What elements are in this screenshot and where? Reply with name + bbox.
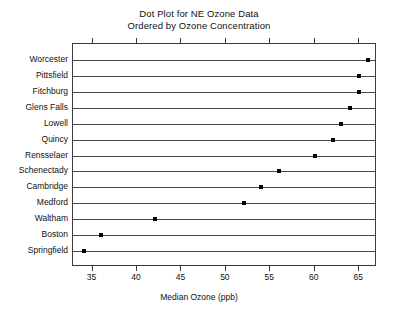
category-label: Cambridge	[26, 181, 68, 191]
dot-plot-figure: Dot Plot for NE Ozone Data Ordered by Oz…	[0, 0, 398, 320]
plot-area	[72, 43, 376, 266]
x-tick-bottom	[92, 266, 93, 271]
x-tick-bottom	[225, 266, 226, 271]
data-point[interactable]	[366, 58, 370, 62]
data-point[interactable]	[357, 74, 361, 78]
category-label: Rensselaer	[25, 150, 68, 160]
x-tick-label: 65	[353, 272, 362, 282]
category-label: Glens Falls	[25, 102, 68, 112]
category-label: Medford	[37, 197, 68, 207]
data-point[interactable]	[339, 122, 343, 126]
x-tick-label: 50	[220, 272, 229, 282]
data-point[interactable]	[277, 169, 281, 173]
x-tick-bottom	[136, 266, 137, 271]
x-tick-label: 35	[87, 272, 96, 282]
category-row-line	[73, 187, 375, 188]
data-point[interactable]	[313, 154, 317, 158]
category-label: Quincy	[42, 134, 68, 144]
chart-title-line-1: Dot Plot for NE Ozone Data	[0, 8, 398, 20]
x-axis-label: Median Ozone (ppb)	[0, 292, 398, 302]
x-tick-label: 45	[176, 272, 185, 282]
x-tick-bottom	[180, 266, 181, 271]
x-tick-label: 60	[309, 272, 318, 282]
plot-series-container	[73, 44, 375, 265]
category-row-line	[73, 235, 375, 236]
category-row-line	[73, 76, 375, 77]
data-point[interactable]	[331, 138, 335, 142]
category-label: Springfield	[28, 245, 68, 255]
category-row-line	[73, 171, 375, 172]
chart-title: Dot Plot for NE Ozone Data Ordered by Oz…	[0, 8, 398, 32]
x-tick-label: 40	[131, 272, 140, 282]
data-point[interactable]	[99, 233, 103, 237]
category-label: Schenectady	[19, 165, 68, 175]
chart-title-line-2: Ordered by Ozone Concentration	[0, 20, 398, 32]
category-row-line	[73, 124, 375, 125]
x-tick-bottom	[269, 266, 270, 271]
data-point[interactable]	[348, 106, 352, 110]
category-row-line	[73, 108, 375, 109]
category-row-line	[73, 219, 375, 220]
category-label: Lowell	[44, 118, 68, 128]
category-label: Waltham	[35, 213, 68, 223]
data-point[interactable]	[82, 249, 86, 253]
x-tick-bottom	[358, 266, 359, 271]
data-point[interactable]	[242, 201, 246, 205]
category-row-line	[73, 92, 375, 93]
x-tick-bottom	[314, 266, 315, 271]
category-label: Pittsfield	[36, 70, 68, 80]
data-point[interactable]	[259, 185, 263, 189]
category-label: Boston	[42, 229, 68, 239]
category-row-line	[73, 251, 375, 252]
category-label: Worcester	[29, 54, 68, 64]
category-row-line	[73, 156, 375, 157]
x-tick-label: 55	[265, 272, 274, 282]
data-point[interactable]	[153, 217, 157, 221]
data-point[interactable]	[357, 90, 361, 94]
category-row-line	[73, 60, 375, 61]
category-row-line	[73, 203, 375, 204]
category-label: Fitchburg	[33, 86, 68, 96]
